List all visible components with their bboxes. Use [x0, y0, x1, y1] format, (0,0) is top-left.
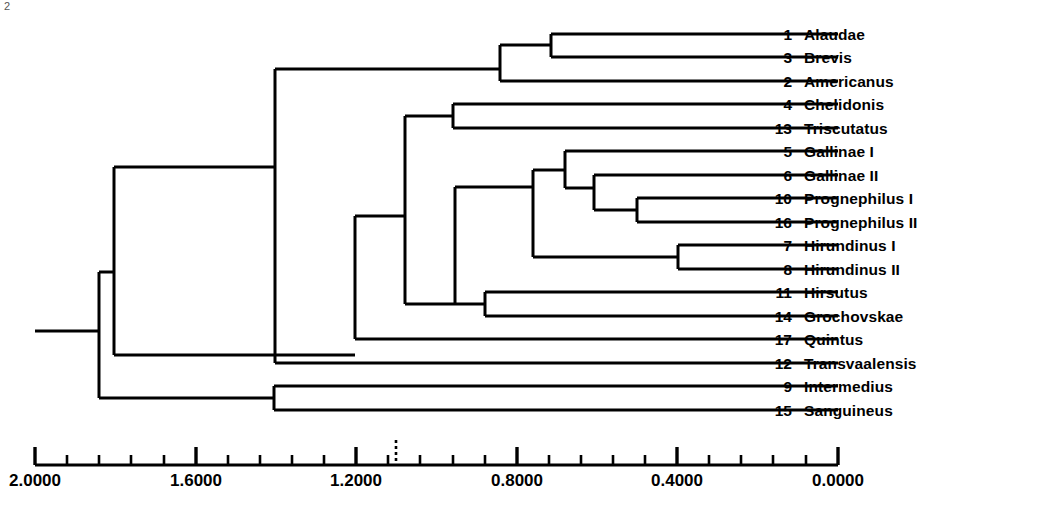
axis-label-1.2000: 1.2000 — [330, 472, 382, 489]
axis-label-1.6000: 1.6000 — [170, 472, 222, 489]
leaf-number: 2 — [758, 74, 792, 90]
leaf-number: 15 — [758, 403, 792, 419]
leaf-label-triscutatus: Triscutatus — [804, 121, 888, 137]
leaf-label-prognephilus-i: Prognephilus I — [804, 191, 913, 207]
leaf-label-alaudae: Alaudae — [804, 27, 865, 43]
leaf-number: 13 — [758, 121, 792, 137]
axis-label-0.0000: 0.0000 — [812, 472, 864, 489]
axis-label-0.8000: 0.8000 — [491, 472, 543, 489]
leaf-number: 6 — [758, 168, 792, 184]
leaf-label-americanus: Americanus — [804, 74, 894, 90]
leaf-number: 7 — [758, 238, 792, 254]
leaf-label-chelidonis: Chelidonis — [804, 97, 884, 113]
leaf-label-hirundinus-i: Hirundinus I — [804, 238, 896, 254]
leaf-number: 14 — [758, 309, 792, 325]
leaf-label-quintus: Quintus — [804, 332, 863, 348]
axis-label-2.0000: 2.0000 — [9, 472, 61, 489]
leaf-number: 12 — [758, 356, 792, 372]
leaf-number: 9 — [758, 379, 792, 395]
leaf-label-transvaalensis: Transvaalensis — [804, 356, 917, 372]
leaf-label-sanguineus: Sanguineus — [804, 403, 893, 419]
leaf-label-hirsutus: Hirsutus — [804, 285, 868, 301]
leaf-label-hirundinus-ii: Hirundinus II — [804, 262, 900, 278]
leaf-number: 4 — [758, 97, 792, 113]
leaf-number: 11 — [758, 285, 792, 301]
leaf-number: 10 — [758, 191, 792, 207]
leaf-number: 1 — [758, 27, 792, 43]
leaf-number: 8 — [758, 262, 792, 278]
leaf-number: 16 — [758, 215, 792, 231]
leaf-label-intermedius: Intermedius — [804, 379, 893, 395]
leaf-label-prognephilus-ii: Prognephilus II — [804, 215, 917, 231]
leaf-label-grochovskae: Grochovskae — [804, 309, 903, 325]
dendrogram-figure: 2 — [0, 0, 1039, 512]
axis-label-0.4000: 0.4000 — [651, 472, 703, 489]
leaf-label-gallinae-ii: Gallinae II — [804, 168, 878, 184]
leaf-number: 17 — [758, 332, 792, 348]
leaf-number: 3 — [758, 50, 792, 66]
leaf-label-gallinae-i: Gallinae I — [804, 144, 874, 160]
leaf-number: 5 — [758, 144, 792, 160]
leaf-label-brevis: Brevis — [804, 50, 852, 66]
